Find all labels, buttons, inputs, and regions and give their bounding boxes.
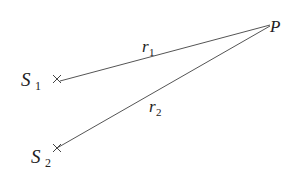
point-s2-subscript: 2 [45, 156, 51, 170]
diagram-svg: P S 1 S 2 r 1 r 2 [0, 0, 306, 189]
source-s1-cross-icon [53, 75, 61, 83]
source-s2-cross-icon [53, 144, 61, 152]
segment-r1 [60, 25, 270, 81]
segment-r2-label: r [149, 97, 156, 116]
two-source-path-diagram: P S 1 S 2 r 1 r 2 [0, 0, 306, 189]
segment-r2-subscript: 2 [156, 106, 162, 118]
point-s1-label: S [21, 69, 31, 90]
point-s1-subscript: 1 [35, 79, 41, 93]
point-p-label: P [269, 17, 280, 36]
segment-r1-subscript: 1 [149, 46, 155, 58]
segment-r2 [57, 26, 270, 148]
point-s2-label: S [31, 146, 41, 167]
segment-r1-label: r [142, 37, 149, 56]
